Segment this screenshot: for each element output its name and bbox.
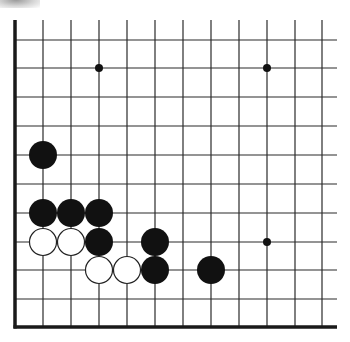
black-stone[interactable] <box>29 141 57 169</box>
white-stone[interactable] <box>114 257 141 284</box>
board-grid <box>15 20 337 327</box>
black-stone[interactable] <box>141 228 169 256</box>
star-point-icon <box>95 64 103 72</box>
black-stone[interactable] <box>197 256 225 284</box>
board-edges <box>14 20 338 329</box>
white-stone[interactable] <box>86 257 113 284</box>
white-stone[interactable] <box>30 229 57 256</box>
black-stone[interactable] <box>85 228 113 256</box>
black-stone[interactable] <box>141 256 169 284</box>
black-stone[interactable] <box>57 199 85 227</box>
star-point-icon <box>263 64 271 72</box>
star-point-icon <box>263 238 271 246</box>
black-stone[interactable] <box>85 199 113 227</box>
go-board[interactable] <box>0 0 350 342</box>
black-stone[interactable] <box>29 199 57 227</box>
white-stone[interactable] <box>58 229 85 256</box>
